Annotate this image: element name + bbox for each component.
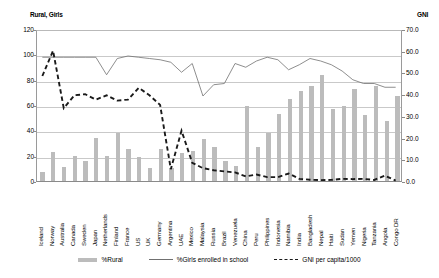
right-axis-tickmark <box>402 30 405 31</box>
right-axis-tickmark <box>402 139 405 140</box>
category-label: Yemen <box>349 228 356 246</box>
category-label: Tanzania <box>370 222 377 246</box>
solid-line-swatch-icon <box>149 259 173 260</box>
left-axis-tick-label: 20 <box>6 153 34 160</box>
right-axis-title: GNI <box>417 11 428 18</box>
category-label: Iceland <box>37 227 44 246</box>
category-label: Indonesia <box>274 221 281 247</box>
left-axis-tickmark <box>33 55 36 56</box>
legend-label-gni: GNI per capita/1000 <box>302 256 360 263</box>
right-axis-tickmark <box>402 117 405 118</box>
category-label: France <box>123 228 130 246</box>
right-axis-tick-label: 70.0 <box>406 26 439 33</box>
category-label: Malaysia <box>198 223 205 246</box>
left-axis-tick-label: 60 <box>6 102 34 109</box>
right-axis-tick-label: 20.0 <box>406 135 439 142</box>
category-label: Norway <box>48 226 55 246</box>
category-label: India <box>295 233 302 246</box>
category-label: Nigeria <box>360 227 367 246</box>
category-label: Bangladesh <box>306 215 313 246</box>
chart-legend: %Rural %Girls enrolled in school GNI per… <box>0 256 439 263</box>
legend-item-girls-enrolled: %Girls enrolled in school <box>149 256 249 263</box>
left-axis-title: Rural, Girls <box>30 11 63 18</box>
left-axis-tickmark <box>33 157 36 158</box>
category-label: Venezuela <box>231 218 238 246</box>
category-label: China <box>241 231 248 246</box>
category-label: Japan <box>91 230 98 246</box>
right-axis-tick-label: 40.0 <box>406 91 439 98</box>
left-axis-tickmark <box>33 131 36 132</box>
bar-swatch-icon <box>78 258 97 262</box>
plot-area <box>36 30 402 182</box>
right-axis-tick-label: 30.0 <box>406 113 439 120</box>
legend-label-rural: %Rural <box>101 256 122 263</box>
category-label: Sudan <box>338 229 345 246</box>
right-axis-tick-label: 0.0 <box>406 178 439 185</box>
category-label: Germany <box>155 222 162 246</box>
category-label: Canada <box>69 225 76 246</box>
category-label: Nepal <box>317 231 324 246</box>
line-gni-per-capita <box>42 51 395 181</box>
line-girls-enrolled <box>42 56 395 96</box>
left-axis-tickmark <box>33 30 36 31</box>
category-label: Finland <box>112 227 119 246</box>
category-label: Peru <box>252 234 259 246</box>
left-axis-tickmark <box>33 106 36 107</box>
legend-item-gni: GNI per capita/1000 <box>274 256 360 263</box>
category-axis-labels: IcelandNorwayAustraliaCanadaSwedenJapanN… <box>36 184 402 246</box>
category-label: Netherlands <box>101 214 108 246</box>
chart-container: Rural, Girls GNI 020406080100120 0.010.0… <box>0 0 439 278</box>
category-label: US <box>134 238 141 246</box>
category-label: Philippines <box>263 218 270 246</box>
category-label: Haiti <box>327 234 334 246</box>
legend-label-girls-enrolled: %Girls enrolled in school <box>177 256 249 263</box>
left-axis-tick-label: 40 <box>6 127 34 134</box>
right-axis-tickmark <box>402 182 405 183</box>
category-label: Congo DR <box>392 218 399 246</box>
dashed-line-swatch-icon <box>274 259 298 260</box>
right-axis-tick-label: 10.0 <box>406 156 439 163</box>
right-axis-tick-label: 50.0 <box>406 69 439 76</box>
right-axis-tickmark <box>402 160 405 161</box>
left-axis-tick-label: 100 <box>6 51 34 58</box>
right-axis-tick-label: 60.0 <box>406 48 439 55</box>
left-axis-tickmark <box>33 182 36 183</box>
left-axis-tickmark <box>33 81 36 82</box>
category-label: Sweden <box>80 225 87 246</box>
left-axis-tick-label: 120 <box>6 26 34 33</box>
category-label: UK <box>144 238 151 246</box>
right-axis-tickmark <box>402 95 405 96</box>
left-axis-tick-label: 0 <box>6 178 34 185</box>
right-axis-tickmark <box>402 73 405 74</box>
line-series-layer <box>37 31 401 181</box>
left-axis-tick-label: 80 <box>6 77 34 84</box>
category-label: Angola <box>381 228 388 246</box>
category-label: UAE <box>177 234 184 246</box>
right-axis-tickmark <box>402 52 405 53</box>
category-label: Mexico <box>187 227 194 246</box>
category-label: Argentina <box>166 221 173 246</box>
category-label: Australia <box>58 223 65 246</box>
category-label: Brazil <box>220 231 227 246</box>
legend-item-rural: %Rural <box>78 256 122 263</box>
category-label: Russia <box>209 228 216 246</box>
category-label: Namibia <box>284 224 291 246</box>
